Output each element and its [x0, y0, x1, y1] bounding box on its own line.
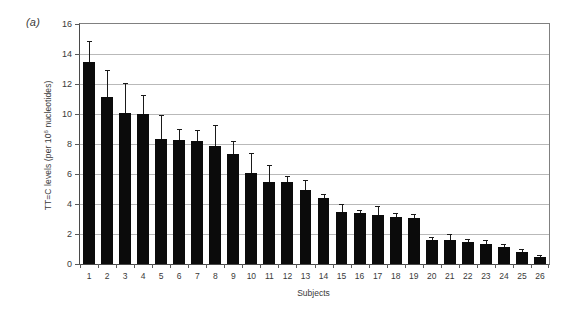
- gridline: [80, 174, 549, 175]
- bar: [516, 252, 528, 264]
- error-bar-cap: [447, 234, 452, 235]
- x-axis-tick-label: 4: [141, 271, 146, 281]
- y-axis-tick: [75, 174, 80, 175]
- x-axis-tick-label: 2: [105, 271, 110, 281]
- x-axis-tick: [351, 264, 352, 268]
- x-axis-tick: [242, 264, 243, 268]
- error-bar-cap: [177, 129, 182, 130]
- x-axis-tick: [333, 264, 334, 268]
- x-axis-tick: [405, 264, 406, 268]
- error-bar-cap: [465, 239, 470, 240]
- x-axis-tick-label: 22: [463, 271, 472, 281]
- bar: [83, 62, 95, 265]
- error-bar: [89, 41, 90, 61]
- y-axis-tick: [75, 114, 80, 115]
- bar: [263, 182, 275, 265]
- error-bar-cap: [375, 206, 380, 207]
- error-bar: [125, 83, 126, 113]
- x-axis-tick-label: 9: [231, 271, 236, 281]
- error-bar: [269, 165, 270, 182]
- x-axis-tick: [495, 264, 496, 268]
- gridline: [80, 54, 549, 55]
- y-axis-tick: [75, 204, 80, 205]
- x-axis-tick: [531, 264, 532, 268]
- error-bar: [143, 95, 144, 115]
- y-axis-tick-label: 10: [62, 109, 72, 119]
- gridline: [80, 84, 549, 85]
- bar: [372, 215, 384, 265]
- x-axis-tick-label: 11: [265, 271, 274, 281]
- x-axis-tick: [188, 264, 189, 268]
- y-axis-tick-label: 16: [62, 19, 72, 29]
- x-axis-tick-label: 8: [213, 271, 218, 281]
- x-axis-tick: [80, 264, 81, 268]
- x-axis-tick: [423, 264, 424, 268]
- bar: [354, 213, 366, 264]
- y-axis-tick: [75, 234, 80, 235]
- x-axis-tick: [224, 264, 225, 268]
- bar: [480, 244, 492, 264]
- bar: [426, 240, 438, 264]
- x-axis-tick: [260, 264, 261, 268]
- bar: [408, 218, 420, 265]
- bar: [336, 212, 348, 264]
- error-bar-cap: [267, 165, 272, 166]
- x-axis-tick-label: 3: [123, 271, 128, 281]
- x-axis-tick: [387, 264, 388, 268]
- y-axis-tick-label: 4: [67, 199, 72, 209]
- x-axis-tick: [459, 264, 460, 268]
- gridline: [80, 234, 549, 235]
- x-axis-tick-label: 15: [337, 271, 346, 281]
- y-axis-title: TT=C levels (per 106 nucleotides): [43, 45, 54, 245]
- bar: [191, 141, 203, 264]
- x-axis-tick: [278, 264, 279, 268]
- error-bar-cap: [141, 95, 146, 96]
- x-axis-tick: [152, 264, 153, 268]
- error-bar-cap: [519, 249, 524, 250]
- error-bar: [197, 130, 198, 141]
- gridline: [80, 144, 549, 145]
- plot-area: 0246810121416123456789101112131415161718…: [79, 23, 550, 265]
- error-bar-cap: [393, 213, 398, 214]
- error-bar: [215, 125, 216, 147]
- error-bar-cap: [231, 141, 236, 142]
- error-bar-cap: [501, 244, 506, 245]
- x-axis-tick: [513, 264, 514, 268]
- bar: [137, 114, 149, 264]
- error-bar-cap: [123, 83, 128, 84]
- x-axis-tick-label: 6: [177, 271, 182, 281]
- y-axis-title-exponent: 6: [43, 130, 49, 133]
- error-bar-cap: [195, 130, 200, 131]
- bar: [281, 182, 293, 264]
- error-bar: [342, 204, 343, 212]
- y-axis-tick: [75, 24, 80, 25]
- x-axis-tick-label: 19: [409, 271, 418, 281]
- error-bar: [233, 141, 234, 154]
- x-axis-tick-label: 18: [391, 271, 400, 281]
- x-axis-tick: [206, 264, 207, 268]
- error-bar-cap: [87, 41, 92, 42]
- error-bar: [378, 206, 379, 214]
- y-axis-tick-label: 14: [62, 49, 72, 59]
- bar: [101, 97, 113, 264]
- x-axis-tick-label: 24: [499, 271, 508, 281]
- error-bar-cap: [483, 240, 488, 241]
- y-axis-tick-label: 8: [67, 139, 72, 149]
- error-bar-cap: [411, 214, 416, 215]
- x-axis-tick-label: 23: [481, 271, 490, 281]
- x-axis-tick-label: 5: [159, 271, 164, 281]
- x-axis-tick-label: 10: [247, 271, 256, 281]
- bar: [245, 173, 257, 264]
- x-axis-tick-label: 21: [445, 271, 454, 281]
- error-bar-cap: [159, 115, 164, 116]
- error-bar: [107, 70, 108, 97]
- y-axis-tick: [75, 54, 80, 55]
- y-axis-tick-label: 12: [62, 79, 72, 89]
- error-bar: [305, 180, 306, 190]
- bar: [498, 247, 510, 264]
- error-bar-cap: [429, 237, 434, 238]
- bar: [318, 198, 330, 264]
- error-bar-cap: [357, 210, 362, 211]
- x-axis-tick: [134, 264, 135, 268]
- y-axis-tick-label: 0: [67, 259, 72, 269]
